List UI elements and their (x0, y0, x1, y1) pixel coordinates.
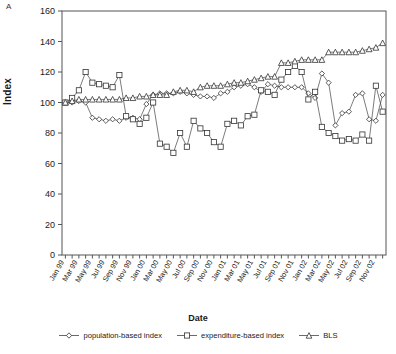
data-point-diamond (272, 83, 277, 88)
chart-legend: population-based indexexpenditure-based … (0, 331, 396, 340)
data-point-square (151, 100, 156, 105)
data-point-diamond (286, 85, 291, 90)
chart-plot-area: 020406080100120140160Jan 99Mar 99May 99J… (0, 0, 396, 354)
data-point-square (340, 138, 345, 143)
data-point-diamond (90, 115, 95, 120)
data-point-square (360, 132, 365, 137)
chart-figure: A Index 020406080100120140160Jan 99Mar 9… (0, 0, 396, 354)
data-point-diamond (252, 85, 257, 90)
data-point-diamond (211, 95, 216, 100)
data-point-square (245, 114, 250, 119)
data-point-diamond (292, 85, 297, 90)
y-tick-label: 160 (40, 6, 55, 16)
data-point-diamond (198, 94, 203, 99)
data-point-diamond (103, 118, 108, 123)
data-point-diamond (218, 91, 223, 96)
data-point-square (178, 130, 183, 135)
y-tick-label: 40 (45, 189, 55, 199)
data-point-triangle (373, 45, 379, 51)
data-point-square (286, 69, 291, 74)
legend-marker-diamond (58, 331, 80, 340)
data-point-diamond (110, 117, 115, 122)
legend-marker-square (176, 331, 198, 340)
data-point-diamond (144, 101, 149, 106)
data-point-square (130, 117, 135, 122)
data-point-square (218, 144, 223, 149)
plot-frame (62, 11, 386, 255)
series-line-square (65, 66, 382, 153)
data-point-square (306, 97, 311, 102)
data-point-square (313, 89, 318, 94)
data-point-diamond (340, 111, 345, 116)
legend-bls[interactable]: BLS (298, 331, 337, 340)
data-point-square (319, 124, 324, 129)
data-point-diamond (360, 91, 365, 96)
data-point-square (232, 118, 237, 123)
x-axis-label: Date (0, 313, 396, 323)
data-point-square (252, 112, 257, 117)
data-point-square (326, 130, 331, 135)
data-point-square (380, 109, 385, 114)
y-tick-label: 120 (40, 67, 55, 77)
data-point-diamond (319, 71, 324, 76)
y-tick-label: 100 (40, 98, 55, 108)
data-point-square (272, 92, 277, 97)
y-tick-label: 80 (45, 128, 55, 138)
data-point-square (90, 80, 95, 85)
data-point-diamond (279, 85, 284, 90)
data-point-diamond (97, 117, 102, 122)
legend-label: population-based index (83, 331, 162, 340)
data-point-square (110, 85, 115, 90)
data-point-square (373, 83, 378, 88)
legend-label: expenditure-based index (201, 331, 284, 340)
data-point-square (225, 121, 230, 126)
data-point-square (124, 114, 129, 119)
data-point-diamond (326, 80, 331, 85)
data-point-square (191, 118, 196, 123)
data-point-square (157, 141, 162, 146)
data-point-square (353, 138, 358, 143)
data-point-square (279, 77, 284, 82)
data-point-square (211, 140, 216, 145)
data-point-square (367, 138, 372, 143)
data-point-square (346, 137, 351, 142)
data-point-square (97, 82, 102, 87)
data-point-diamond (353, 92, 358, 97)
data-point-square (144, 115, 149, 120)
data-point-diamond (225, 89, 230, 94)
data-point-triangle (380, 40, 386, 46)
data-point-square (205, 130, 210, 135)
legend-label: BLS (323, 331, 337, 340)
legend-marker-triangle (298, 331, 320, 340)
data-point-square (137, 121, 142, 126)
y-tick-label: 140 (40, 37, 55, 47)
data-point-square (259, 88, 264, 93)
data-point-diamond (367, 117, 372, 122)
data-point-diamond (117, 118, 122, 123)
data-point-diamond (205, 94, 210, 99)
data-point-diamond (380, 92, 385, 97)
y-tick-label: 0 (50, 250, 55, 260)
data-point-square (117, 72, 122, 77)
data-point-square (171, 150, 176, 155)
legend-expenditure-based-index[interactable]: expenditure-based index (176, 331, 284, 340)
data-point-square (83, 69, 88, 74)
y-tick-label: 20 (45, 220, 55, 230)
data-point-square (76, 88, 81, 93)
data-point-square (265, 89, 270, 94)
data-point-square (238, 123, 243, 128)
y-tick-label: 60 (45, 159, 55, 169)
data-point-diamond (346, 109, 351, 114)
data-point-square (184, 144, 189, 149)
data-point-square (164, 144, 169, 149)
data-point-square (103, 83, 108, 88)
legend-population-based-index[interactable]: population-based index (58, 331, 162, 340)
data-point-square (333, 133, 338, 138)
data-point-diamond (333, 123, 338, 128)
data-point-square (299, 69, 304, 74)
data-point-diamond (373, 118, 378, 123)
data-point-square (198, 126, 203, 131)
